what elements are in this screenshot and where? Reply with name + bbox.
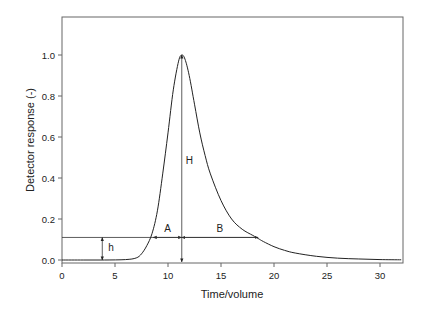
chart-container: 051015202530 0.00.20.40.60.81.0 HhAB Tim… bbox=[0, 0, 424, 317]
x-axis: 051015202530 bbox=[59, 263, 385, 281]
y-tick-label: 0.4 bbox=[42, 173, 55, 184]
y-tick-label: 0.8 bbox=[42, 91, 55, 102]
y-tick-label: 1.0 bbox=[42, 50, 55, 61]
x-axis-title: Time/volume bbox=[201, 288, 264, 300]
label-H: H bbox=[186, 155, 193, 166]
plot-frame bbox=[62, 17, 403, 263]
x-tick-label: 30 bbox=[375, 270, 386, 281]
label-A: A bbox=[164, 223, 171, 234]
y-tick-label: 0.0 bbox=[42, 255, 55, 266]
y-tick-label: 0.6 bbox=[42, 132, 55, 143]
chart-svg: 051015202530 0.00.20.40.60.81.0 HhAB Tim… bbox=[0, 0, 424, 317]
x-tick-label: 20 bbox=[269, 270, 280, 281]
y-tick-label: 0.2 bbox=[42, 214, 55, 225]
x-tick-label: 0 bbox=[59, 270, 64, 281]
x-tick-label: 5 bbox=[112, 270, 117, 281]
detector-response-curve bbox=[62, 55, 401, 260]
y-axis-title: Detector response (-) bbox=[24, 88, 36, 192]
annotations: HhAB bbox=[62, 55, 258, 262]
y-axis: 0.00.20.40.60.81.0 bbox=[42, 50, 62, 266]
label-h: h bbox=[108, 242, 114, 253]
x-tick-label: 10 bbox=[163, 270, 174, 281]
x-tick-label: 15 bbox=[216, 270, 227, 281]
x-tick-label: 25 bbox=[322, 270, 333, 281]
label-B: B bbox=[217, 223, 224, 234]
